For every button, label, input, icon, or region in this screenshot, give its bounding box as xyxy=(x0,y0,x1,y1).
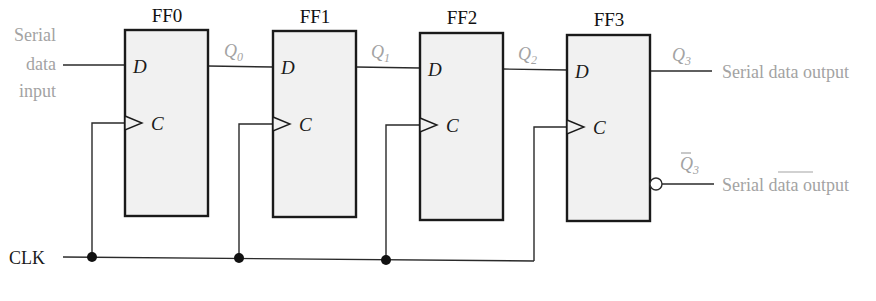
inverter-bubble-icon xyxy=(650,178,662,190)
clk-junction-1 xyxy=(234,253,244,263)
q2-to-ff3-wire xyxy=(503,69,568,70)
flip-flop-ff2: FF2 D C Q2 xyxy=(420,7,537,220)
q0-label: Q0 xyxy=(224,41,243,64)
clk-junction-0 xyxy=(87,252,97,262)
flip-flop-ff1: FF1 D C Q1 xyxy=(273,6,390,217)
clk-label: CLK xyxy=(9,248,45,268)
q0-to-ff1-wire xyxy=(208,66,273,67)
shift-register-diagram: Serial data input CLK FF0 D C Q0 FF1 D C… xyxy=(0,0,876,301)
q3-bar-label: Q3 xyxy=(680,154,699,177)
clk-to-ff1-wire xyxy=(239,124,273,258)
input-label-line-1: Serial xyxy=(14,25,56,45)
q2-label: Q2 xyxy=(518,44,537,67)
ff3-label: FF3 xyxy=(594,9,625,30)
clk-to-ff0-wire xyxy=(92,123,125,257)
ff2-label: FF2 xyxy=(447,7,478,28)
serial-inverted-output-label: Serial data output xyxy=(722,175,849,195)
q3-label: Q3 xyxy=(672,45,691,68)
ff1-d-pin: D xyxy=(280,57,295,78)
clk-junction-2 xyxy=(381,255,391,265)
ff1-label: FF1 xyxy=(300,6,331,27)
input-label-line-2: data xyxy=(26,54,56,74)
clk-to-ff3-wire xyxy=(534,127,568,261)
ff0-label: FF0 xyxy=(152,5,183,26)
flip-flop-ff3: FF3 D C Q3 xyxy=(567,9,691,221)
ff3-d-pin: D xyxy=(574,61,589,82)
clk-bus-wire xyxy=(63,257,534,261)
ff1-c-pin: C xyxy=(299,114,312,135)
serial-output-label: Serial data output xyxy=(722,62,849,82)
input-label-line-3: input xyxy=(19,81,56,101)
ff2-d-pin: D xyxy=(427,59,442,80)
ff2-c-pin: C xyxy=(446,115,459,136)
ff0-d-pin: D xyxy=(132,56,147,77)
q1-to-ff2-wire xyxy=(356,67,420,68)
ff0-c-pin: C xyxy=(151,113,164,134)
ff3-c-pin: C xyxy=(593,117,606,138)
flip-flop-ff0: FF0 D C Q0 xyxy=(125,5,243,216)
q1-label: Q1 xyxy=(371,42,390,65)
clk-to-ff2-wire xyxy=(386,125,420,260)
